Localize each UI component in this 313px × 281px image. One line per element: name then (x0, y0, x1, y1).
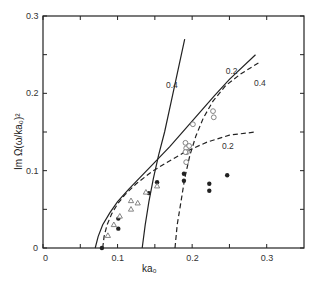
filled-circle-marker (182, 172, 186, 176)
chart-canvas: 00.10.20.300.10.20.3 0.40.20.40.2 ka₀ Im… (0, 0, 313, 281)
solid-theory-curve (142, 39, 185, 248)
x-tick-label: 0 (43, 253, 48, 263)
open-circle-marker (183, 150, 188, 155)
x-tick-label: 0.1 (112, 253, 125, 263)
filled-circle-marker (182, 179, 186, 183)
y-tick-label: 0.3 (26, 11, 39, 21)
filled-circle-marker (207, 189, 211, 193)
open-circle-marker (187, 144, 192, 149)
open-triangle-marker (135, 200, 140, 205)
filled-circle-marker (225, 173, 229, 177)
curve-label: 0.4 (254, 78, 266, 88)
open-circle-marker (190, 122, 195, 127)
open-circle-marker (184, 160, 189, 165)
open-triangle-marker (117, 213, 122, 218)
y-tick-label: 0.2 (26, 88, 39, 98)
dashed-theory-curve (175, 62, 259, 248)
open-triangle-marker (128, 207, 133, 212)
x-axis-label: ka₀ (142, 263, 157, 274)
open-triangle-marker (105, 233, 110, 238)
open-circle-marker (211, 115, 216, 120)
filled-circle-marker (116, 226, 120, 230)
curve-label: 0.2 (222, 141, 234, 151)
plot-border (43, 16, 304, 248)
x-tick-label: 0.2 (186, 253, 199, 263)
filled-circle-marker (100, 246, 104, 250)
curve-label: 0.4 (166, 80, 178, 90)
y-tick-label: 0 (33, 243, 38, 253)
plot-frame (43, 16, 304, 248)
open-triangle-marker (154, 183, 159, 188)
filled-circle-marker (207, 182, 211, 186)
open-triangle-marker (111, 222, 116, 227)
y-tick-label: 0.1 (26, 166, 39, 176)
curve-label: 0.2 (226, 66, 238, 76)
x-tick-label: 0.3 (261, 253, 274, 263)
open-triangle-marker (128, 198, 133, 203)
axis-ticks: 00.10.20.300.10.20.3 (26, 11, 304, 263)
y-axis-label: Im Ω(ω/ka₀)² (13, 113, 24, 170)
open-circle-marker (211, 109, 216, 114)
